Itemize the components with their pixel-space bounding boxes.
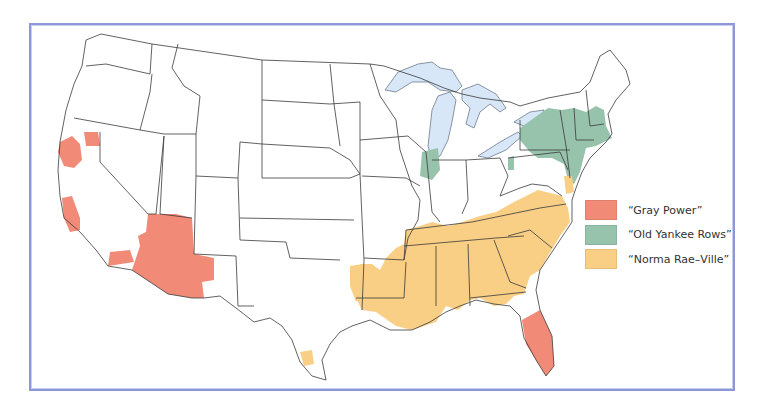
legend-label: “Gray Power”	[628, 204, 703, 217]
swatch-old-yankee-rows	[585, 225, 617, 245]
swatch-norma-rae-ville	[585, 249, 617, 269]
legend-item-old-yankee-rows: “Old Yankee Rows”	[585, 223, 732, 248]
legend-item-norma-rae-ville: “Norma Rae–Ville”	[585, 247, 732, 272]
swatch-gray-power	[585, 200, 617, 220]
legend-item-gray-power: “Gray Power”	[585, 198, 732, 223]
legend-label: “Old Yankee Rows”	[628, 228, 732, 241]
legend-label: “Norma Rae–Ville”	[628, 253, 729, 266]
map-legend: “Gray Power” “Old Yankee Rows” “Norma Ra…	[585, 198, 732, 272]
